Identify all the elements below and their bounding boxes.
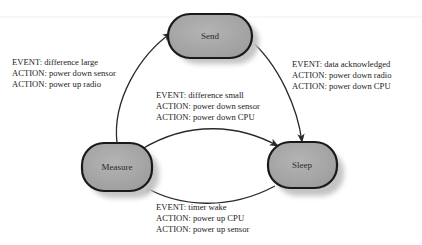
action-line: ACTION: power down CPU (292, 81, 391, 91)
action-line: ACTION: power down radio (292, 70, 392, 80)
action-line: ACTION: power up CPU (156, 213, 245, 223)
edge-measure-to-sleep (142, 129, 278, 149)
action-line: ACTION: power down CPU (156, 112, 255, 122)
transition-label-send-to-sleep: EVENT: data acknowledged ACTION: power d… (292, 59, 392, 91)
state-send[interactable]: Send (168, 14, 259, 64)
event-line: EVENT: difference large (12, 57, 98, 67)
event-line: EVENT: data acknowledged (292, 59, 391, 69)
state-sleep-label: Sleep (292, 160, 312, 170)
action-line: ACTION: power down sensor (12, 68, 116, 78)
state-measure[interactable]: Measure (82, 143, 159, 198)
state-send-label: Send (201, 31, 220, 41)
transition-label-sleep-to-measure: EVENT: timer wake ACTION: power up CPU A… (156, 202, 249, 234)
action-line: ACTION: power up radio (12, 79, 101, 89)
state-measure-label: Measure (102, 162, 133, 172)
state-sleep[interactable]: Sleep (268, 142, 344, 196)
action-line: ACTION: power down sensor (156, 101, 260, 111)
state-diagram: Send Measure Sleep EVENT: difference lar… (0, 0, 422, 245)
edge-measure-to-send (116, 33, 171, 143)
event-line: EVENT: timer wake (156, 202, 227, 212)
action-line: ACTION: power up sensor (156, 224, 249, 234)
edge-sleep-to-measure (143, 186, 275, 203)
event-line: EVENT: difference small (156, 90, 244, 100)
transition-label-measure-to-send: EVENT: difference large ACTION: power do… (12, 57, 116, 89)
transition-label-measure-to-sleep: EVENT: difference small ACTION: power do… (156, 90, 260, 122)
